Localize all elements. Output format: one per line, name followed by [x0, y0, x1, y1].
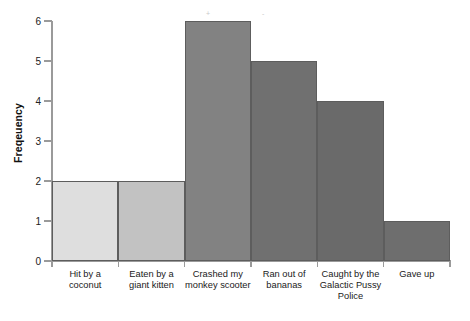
bar [251, 61, 317, 261]
y-tick-label: 5 [26, 56, 41, 67]
plot-area [52, 21, 450, 261]
scan-artifact: + [206, 10, 210, 17]
x-tick-mark [51, 260, 52, 267]
bar [52, 181, 118, 261]
y-axis-title-label: Freqeuency [12, 103, 24, 163]
x-tick-mark [317, 260, 318, 267]
y-tick-label: 3 [26, 136, 41, 147]
x-axis-category-label: Gave up [384, 269, 450, 280]
x-axis-category-label: Caught by the Galactic Pussy Police [317, 269, 383, 303]
bar [384, 221, 450, 261]
x-tick-mark [449, 260, 450, 267]
bar-chart: Freqeuency 0123456 Hit by a coconutEaten… [0, 0, 470, 321]
y-tick-mark [44, 220, 52, 221]
x-tick-mark [250, 260, 251, 267]
y-tick-label: 0 [26, 256, 41, 267]
y-tick-label: 6 [26, 16, 41, 27]
x-axis-category-label: Eaten by a giant kitten [118, 269, 184, 291]
y-tick-mark [44, 140, 52, 141]
x-tick-mark [184, 260, 185, 267]
bar [118, 181, 184, 261]
y-tick-mark [44, 180, 52, 181]
x-tick-mark [383, 260, 384, 267]
y-tick-mark [44, 20, 52, 21]
x-axis-category-label: Crashed my monkey scooter [185, 269, 251, 291]
y-tick-label: 1 [26, 216, 41, 227]
y-tick-label: 4 [26, 96, 41, 107]
y-tick-label: 2 [26, 176, 41, 187]
y-tick-mark [44, 100, 52, 101]
y-tick-mark [44, 60, 52, 61]
bar [317, 101, 383, 261]
x-tick-mark [118, 260, 119, 267]
x-axis-category-label: Hit by a coconut [52, 269, 118, 291]
x-axis-category-label: Ran out of bananas [251, 269, 317, 291]
scan-artifact: - [262, 10, 264, 17]
bar [185, 21, 251, 261]
